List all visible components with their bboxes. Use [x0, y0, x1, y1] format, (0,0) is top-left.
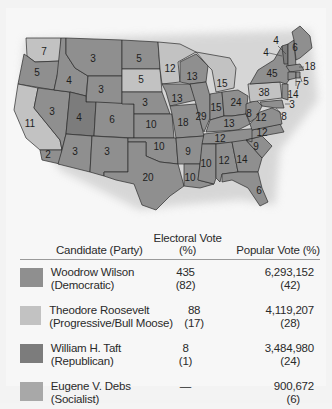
figure-panel: 7 5 11 2 4 3 3 3 4 6 3 3 5 5 3 10 10 20 … [6, 8, 326, 386]
electoral-pct: (1) [144, 355, 227, 368]
electoral-votes: 8 [144, 342, 227, 355]
color-swatch-debs [20, 382, 43, 401]
svg-text:8: 8 [281, 111, 287, 122]
color-swatch-roosevelt [20, 306, 41, 325]
svg-text:3: 3 [98, 84, 104, 95]
popular-pct: (6) [227, 393, 314, 406]
svg-text:45: 45 [266, 68, 278, 79]
svg-text:18: 18 [177, 117, 189, 128]
popular-pct: (28) [233, 317, 314, 330]
svg-text:18: 18 [304, 61, 316, 72]
svg-text:13: 13 [223, 118, 235, 129]
svg-text:11: 11 [25, 118, 36, 129]
electoral-votes: 88 [155, 304, 233, 317]
svg-text:5: 5 [303, 76, 309, 87]
candidate-name: Woodrow Wilson [51, 266, 134, 278]
svg-text:24: 24 [230, 97, 242, 108]
svg-text:9: 9 [185, 146, 191, 157]
candidate-party: (Republican) [51, 355, 114, 367]
svg-text:4: 4 [273, 35, 279, 46]
header-popular: Popular Vote (%) [229, 244, 320, 256]
svg-text:3: 3 [90, 53, 96, 64]
svg-text:13: 13 [186, 71, 198, 82]
svg-text:8: 8 [246, 108, 252, 119]
svg-text:5: 5 [34, 67, 40, 78]
state-wy [86, 76, 122, 104]
color-swatch-wilson [20, 268, 43, 287]
svg-text:12: 12 [255, 112, 267, 123]
candidate-name: Eugene V. Debs [51, 380, 131, 392]
candidate-party: (Democratic) [51, 279, 114, 291]
svg-text:6: 6 [292, 42, 298, 53]
svg-text:12: 12 [256, 127, 268, 138]
candidate-party: (Socialist) [51, 393, 99, 405]
popular-votes: 4,119,207 [233, 304, 314, 317]
svg-text:14: 14 [236, 154, 248, 165]
svg-text:6: 6 [256, 185, 262, 196]
svg-text:10: 10 [184, 172, 196, 183]
electoral-pct: (17) [155, 317, 233, 330]
svg-text:3: 3 [289, 99, 295, 110]
svg-text:13: 13 [171, 93, 183, 104]
svg-text:10: 10 [200, 158, 212, 169]
popular-votes: 6,293,152 [227, 266, 314, 279]
popular-pct: (42) [227, 279, 314, 292]
svg-text:5: 5 [138, 74, 144, 85]
svg-text:20: 20 [142, 172, 154, 183]
svg-text:4: 4 [76, 112, 82, 123]
svg-text:15: 15 [216, 78, 228, 89]
header-electoral: Electoral Vote (%) [146, 232, 229, 256]
svg-text:2: 2 [45, 149, 51, 160]
electoral-pct: (82) [144, 279, 227, 292]
svg-text:4: 4 [66, 75, 72, 86]
svg-text:3: 3 [49, 106, 55, 117]
table-header: Candidate (Party) Electoral Vote (%) Pop… [20, 236, 320, 260]
svg-text:12: 12 [214, 133, 226, 144]
electoral-votes: 435 [144, 266, 227, 279]
results-table: Candidate (Party) Electoral Vote (%) Pop… [20, 236, 320, 409]
popular-pct: (24) [227, 355, 314, 368]
candidate-name: Theodore Roosevelt [49, 304, 149, 316]
candidate-name: William H. Taft [51, 342, 121, 354]
table-row: Woodrow Wilson(Democratic) 435(82) 6,293… [20, 266, 320, 298]
svg-text:6: 6 [109, 114, 115, 125]
svg-text:38: 38 [258, 87, 270, 98]
header-candidate: Candidate (Party) [20, 244, 146, 256]
table-row: Theodore Roosevelt(Progressive/Bull Moos… [20, 304, 320, 336]
popular-votes: 3,484,980 [227, 342, 314, 355]
electoral-votes: — [144, 380, 227, 393]
svg-text:29: 29 [195, 111, 207, 122]
svg-text:4: 4 [263, 47, 269, 58]
svg-text:3: 3 [104, 146, 110, 157]
svg-text:12: 12 [164, 63, 176, 74]
us-electoral-map: 7 5 11 2 4 3 3 3 4 6 3 3 5 5 3 10 10 20 … [6, 8, 326, 223]
color-swatch-taft [20, 344, 43, 363]
svg-text:10: 10 [145, 119, 157, 130]
svg-text:7: 7 [41, 46, 47, 57]
popular-votes: 900,672 [227, 380, 314, 393]
svg-text:3: 3 [72, 146, 78, 157]
state-ri [296, 72, 300, 78]
table-row: Eugene V. Debs(Socialist) — 900,672(6) [20, 380, 320, 409]
svg-text:3: 3 [142, 97, 148, 108]
svg-text:5: 5 [136, 53, 142, 64]
svg-text:10: 10 [153, 141, 165, 152]
svg-text:9: 9 [253, 141, 259, 152]
svg-text:15: 15 [210, 102, 222, 113]
table-row: William H. Taft(Republican) 8(1) 3,484,9… [20, 342, 320, 374]
svg-text:12: 12 [218, 155, 230, 166]
